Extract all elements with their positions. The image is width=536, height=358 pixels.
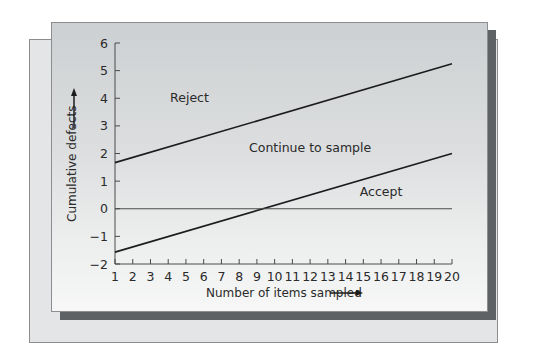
continue-region-label: Continue to sample [249,140,371,155]
x-tick-label: 9 [253,269,261,284]
y-tick-label: 4 [100,91,108,106]
y-tick-label: 2 [100,146,108,161]
y-axis-arrowhead-icon [71,88,77,96]
x-tick-label: 3 [146,269,154,284]
y-axis-label: Cumulative defects [65,106,79,222]
x-tick-label: 20 [444,269,460,284]
x-tick-label: 18 [409,269,425,284]
x-tick-label: 5 [182,269,190,284]
x-tick-label: 1 [111,269,119,284]
x-tick-label: 10 [267,269,283,284]
y-tick-label: 0 [100,201,108,216]
y-tick-label: 3 [100,118,108,133]
x-tick-label: 12 [302,269,318,284]
x-tick-label: 15 [355,269,371,284]
x-tick-label: 7 [217,269,225,284]
x-tick-label: 19 [426,269,442,284]
x-tick-label: 13 [320,269,336,284]
x-tick-label: 11 [284,269,300,284]
chart-svg: −2−1012345612345678910111213141516171819… [0,0,536,358]
x-tick-label: 14 [338,269,354,284]
x-tick-label: 8 [235,269,243,284]
x-tick-label: 6 [200,269,208,284]
x-tick-label: 4 [164,269,172,284]
y-tick-label: 6 [100,36,108,51]
x-tick-label: 2 [129,269,137,284]
x-tick-label: 17 [391,269,407,284]
accept-line [115,154,452,253]
accept-region-label: Accept [360,184,403,199]
y-tick-label: 5 [100,63,108,78]
x-tick-label: 16 [373,269,389,284]
y-tick-label: −2 [90,257,108,272]
y-tick-label: 1 [100,174,108,189]
y-tick-label: −1 [90,229,108,244]
reject-region-label: Reject [170,90,209,105]
